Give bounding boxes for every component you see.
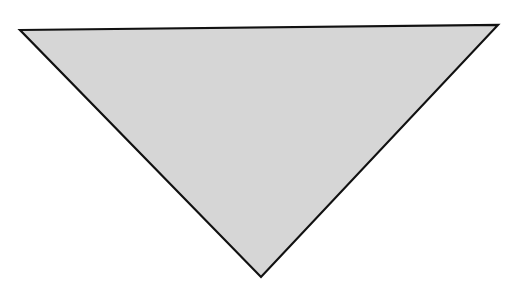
diagram-canvas (0, 0, 507, 289)
inverted-triangle (20, 25, 498, 277)
diagram-svg (0, 0, 507, 289)
